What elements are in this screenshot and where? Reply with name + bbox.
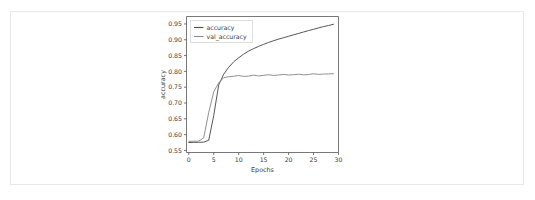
x-tick-label: 0 <box>187 156 191 163</box>
y-axis-title: accuracy <box>159 70 167 99</box>
y-tick-label: 0.80 <box>168 68 182 75</box>
legend-label-accuracy[interactable]: accuracy <box>207 24 235 32</box>
y-tick-label: 0.55 <box>168 147 182 154</box>
y-tick-label: 0.60 <box>168 131 182 138</box>
y-tick-label: 0.85 <box>168 52 182 59</box>
x-axis-title: Epochs <box>251 166 275 174</box>
y-tick-label: 0.65 <box>168 115 182 122</box>
x-tick-label: 5 <box>212 156 216 163</box>
x-tick-label: 20 <box>285 156 293 163</box>
x-tick-label: 25 <box>310 156 318 163</box>
x-tick-label: 10 <box>235 156 243 163</box>
x-tick-label: 30 <box>335 156 343 163</box>
legend-group[interactable]: accuracyval_accuracy <box>191 21 253 43</box>
y-tick-label: 0.70 <box>168 99 182 106</box>
accuracy-line-chart: 0.550.600.650.700.750.800.850.900.950510… <box>0 0 535 200</box>
chart-container: 0.550.600.650.700.750.800.850.900.950510… <box>0 0 535 200</box>
legend-label-val_accuracy[interactable]: val_accuracy <box>207 33 248 41</box>
y-tick-label: 0.95 <box>168 20 182 27</box>
x-tick-label: 15 <box>260 156 268 163</box>
y-tick-label: 0.90 <box>168 36 182 43</box>
y-tick-label: 0.75 <box>168 83 182 90</box>
